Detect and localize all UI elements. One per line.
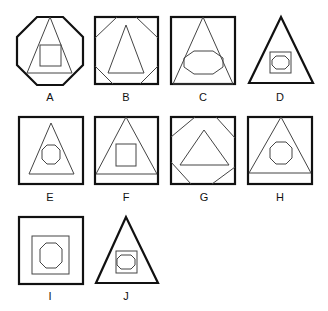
- option-a: A: [17, 17, 83, 103]
- option-f: F: [95, 117, 158, 203]
- triangle-outline: [96, 117, 157, 174]
- triangle-outline: [249, 117, 311, 173]
- option-label: B: [122, 91, 129, 103]
- octagon-outline: [17, 17, 83, 85]
- triangle-outline: [108, 25, 144, 73]
- option-h: H: [248, 117, 312, 203]
- option-label: F: [123, 191, 130, 203]
- octagon-outline: [272, 56, 289, 69]
- option-j: J: [96, 217, 158, 302]
- option-d: D: [249, 17, 313, 103]
- triangle-outline: [180, 130, 229, 165]
- option-label: C: [199, 91, 207, 103]
- option-e: E: [19, 117, 83, 203]
- option-label: G: [200, 191, 209, 203]
- square-outline: [116, 144, 136, 166]
- octagon-outline: [117, 255, 135, 269]
- option-label: A: [46, 91, 54, 103]
- octagon-outline: [40, 243, 62, 268]
- option-b: B: [95, 17, 158, 103]
- options-figure: A B C D E F: [0, 0, 328, 311]
- octagon-outline: [42, 145, 60, 164]
- triangle-outline: [29, 123, 74, 174]
- square-outline: [248, 117, 312, 184]
- option-i: I: [19, 217, 83, 302]
- option-label: J: [123, 290, 129, 302]
- option-g: G: [171, 117, 235, 203]
- octagon-outline: [184, 51, 223, 74]
- octagon-outline: [270, 142, 292, 164]
- square-outline: [40, 45, 61, 66]
- square-outline: [270, 52, 291, 73]
- square-outline: [116, 251, 137, 273]
- option-label: D: [276, 91, 284, 103]
- option-label: I: [48, 290, 51, 302]
- option-label: E: [46, 191, 53, 203]
- option-c: C: [171, 17, 235, 103]
- option-label: H: [276, 191, 284, 203]
